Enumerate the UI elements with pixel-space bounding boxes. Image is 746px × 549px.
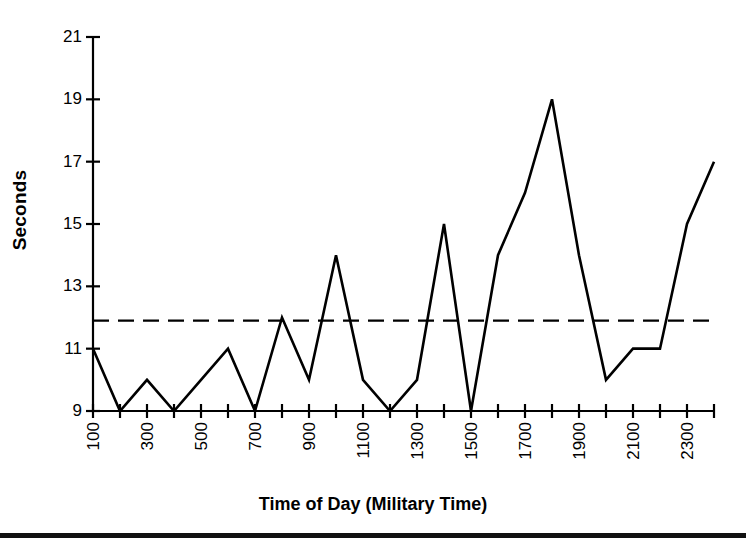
x-tick-label-wrap: 1100 xyxy=(353,422,373,482)
x-tick-label: 1500 xyxy=(463,422,480,460)
x-axis-title: Time of Day (Military Time) xyxy=(0,494,746,515)
x-tick-label-wrap: 500 xyxy=(191,422,211,482)
x-tick-label-wrap: 1500 xyxy=(461,422,481,482)
x-tick-label: 1100 xyxy=(355,422,372,459)
x-tick-label-wrap: 1900 xyxy=(569,422,589,482)
x-tick-label: 300 xyxy=(139,422,156,450)
x-tick-label: 500 xyxy=(193,422,210,450)
x-tick-label-wrap: 2300 xyxy=(677,422,697,482)
x-tick-label-wrap: 300 xyxy=(137,422,157,482)
x-tick-label-wrap: 1300 xyxy=(407,422,427,482)
data-series-line xyxy=(93,99,714,411)
x-tick-label-wrap: 700 xyxy=(245,422,265,482)
x-axis-title-text: Time of Day (Military Time) xyxy=(259,494,487,514)
x-tick-label: 900 xyxy=(301,422,318,450)
x-tick-label: 2100 xyxy=(625,422,642,460)
x-tick-label: 1300 xyxy=(409,422,426,460)
x-tick-label: 100 xyxy=(85,422,102,450)
x-tick-label: 2300 xyxy=(679,422,696,460)
x-tick-label: 1700 xyxy=(517,422,534,460)
x-tick-label: 1900 xyxy=(571,422,588,460)
x-tick-label-wrap: 1700 xyxy=(515,422,535,482)
x-tick-label-wrap: 2100 xyxy=(623,422,643,482)
footer-rule xyxy=(0,533,746,538)
x-tick-label-wrap: 900 xyxy=(299,422,319,482)
x-tick-label: 700 xyxy=(247,422,264,450)
x-tick-label-wrap: 100 xyxy=(83,422,103,482)
chart-figure: Seconds 9111315171921 100300500700900110… xyxy=(0,0,746,549)
